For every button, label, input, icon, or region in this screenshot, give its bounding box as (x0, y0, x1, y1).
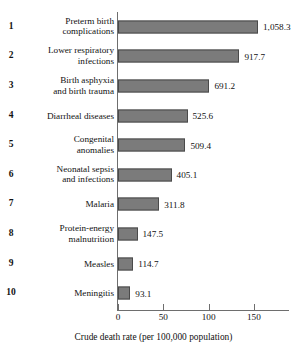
x-tick-mark (209, 304, 210, 310)
x-tick-mark (118, 304, 119, 310)
x-tick-mark (254, 304, 255, 310)
bar-chart-figure: 1Preterm birth complications1,058.32Lowe… (0, 0, 307, 351)
x-tick-mark (163, 304, 164, 310)
x-tick-label: 150 (247, 312, 261, 322)
x-tick-label: 0 (116, 312, 121, 322)
x-axis-ticks: 050100150 (0, 0, 307, 351)
x-tick-label: 100 (202, 312, 216, 322)
x-tick-label: 50 (159, 312, 168, 322)
x-axis-title: Crude death rate (per 100,000 population… (0, 332, 307, 342)
plot-area: 1Preterm birth complications1,058.32Lowe… (0, 0, 307, 351)
